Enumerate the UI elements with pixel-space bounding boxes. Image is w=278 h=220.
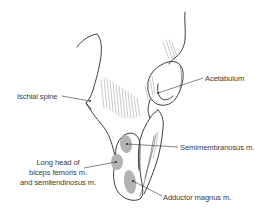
leader-dot	[115, 161, 117, 163]
label-long-head-biceps-semitendinosus: Long head of biceps femoris m. and semit…	[13, 158, 103, 188]
label-semimembranosus: Semimembranosus m.	[180, 143, 254, 153]
label-adductor-magnus: Adductor magnus m.	[163, 193, 231, 203]
leader-dot	[132, 180, 134, 182]
leader-dot	[89, 100, 91, 102]
body-hatching	[101, 78, 140, 118]
acetabulum-hatching	[145, 66, 182, 101]
long-head-biceps-area	[111, 154, 123, 170]
label-line-2: biceps femoris m.	[13, 168, 103, 178]
ischial-spine-leader	[62, 96, 90, 101]
label-acetabulum: Acetabulum	[205, 74, 244, 84]
acetabulum-notch	[158, 84, 173, 100]
adductor-magnus-leader	[133, 181, 162, 196]
acetabulum-lower-edge	[148, 100, 158, 118]
upper-hatching	[163, 40, 177, 59]
acetabulum-leader	[158, 78, 203, 93]
leader-dot	[126, 143, 128, 145]
ischial-body-left-edge	[86, 103, 116, 160]
label-ischial-spine: Ischial spine	[17, 92, 58, 102]
label-line-1: Long head of	[13, 158, 103, 168]
label-line-3: and semitendinosus m.	[13, 178, 103, 188]
ischial-spine-outline	[77, 34, 101, 109]
leader-dot	[157, 92, 159, 94]
anatomy-figure: Ischial spine Acetabulum Semimembranosus…	[0, 0, 278, 220]
